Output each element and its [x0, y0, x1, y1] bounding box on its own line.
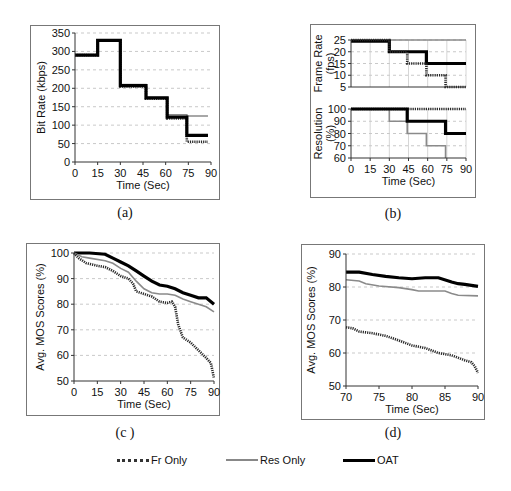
charts-svg: 0501001502002503003500153045607590Time (…: [0, 0, 511, 491]
svg-text:100: 100: [328, 103, 346, 115]
svg-text:45: 45: [138, 386, 150, 398]
y-axis-label: Avg. MOS Scores (%): [34, 263, 46, 370]
svg-text:0: 0: [348, 163, 354, 175]
y-axis-label: Frame Rate(fps): [312, 34, 336, 92]
x-axis-label: Time (Sec): [117, 398, 170, 410]
y-axis-label: Resolution(%): [312, 108, 336, 160]
svg-text:90: 90: [460, 163, 472, 175]
svg-text:75: 75: [441, 163, 453, 175]
chart-b-top: 510152025Frame Rate(fps): [312, 34, 466, 93]
svg-text:70: 70: [329, 314, 341, 326]
svg-text:150: 150: [52, 101, 70, 113]
svg-text:100: 100: [51, 247, 69, 259]
svg-text:15: 15: [92, 167, 104, 179]
svg-text:30: 30: [383, 163, 395, 175]
svg-text:45: 45: [137, 167, 149, 179]
svg-text:60: 60: [161, 386, 173, 398]
svg-text:60: 60: [329, 347, 341, 359]
svg-text:15: 15: [364, 163, 376, 175]
svg-text:70: 70: [340, 391, 352, 403]
series-fr-only: [74, 253, 214, 378]
svg-text:75: 75: [373, 391, 385, 403]
svg-text:90: 90: [329, 248, 341, 260]
svg-text:350: 350: [52, 27, 70, 39]
svg-text:85: 85: [439, 391, 451, 403]
svg-text:200: 200: [52, 82, 70, 94]
svg-text:300: 300: [52, 45, 70, 57]
svg-text:90: 90: [57, 273, 69, 285]
svg-text:0: 0: [71, 386, 77, 398]
svg-text:80: 80: [329, 281, 341, 293]
svg-text:100: 100: [52, 119, 70, 131]
y-axis-label: Bit Rate (kbps): [35, 61, 47, 134]
series-res-only: [74, 253, 214, 312]
svg-text:90: 90: [472, 391, 484, 403]
x-axis-label: Time (Sec): [382, 175, 435, 187]
svg-text:45: 45: [402, 163, 414, 175]
y-axis-label: Avg. MOS Scores (%): [305, 266, 317, 373]
svg-text:90: 90: [208, 386, 220, 398]
chart-b-bottom: 607080901000153045607590Time (Sec)Resolu…: [312, 103, 472, 187]
svg-text:30: 30: [115, 386, 127, 398]
svg-text:75: 75: [182, 167, 194, 179]
svg-text:80: 80: [57, 298, 69, 310]
svg-text:250: 250: [52, 64, 70, 76]
svg-text:70: 70: [57, 324, 69, 336]
chart-a: 0501001502002503003500153045607590Time (…: [35, 27, 217, 191]
svg-text:60: 60: [160, 167, 172, 179]
svg-text:5: 5: [340, 81, 346, 93]
series-fr-only: [346, 327, 478, 373]
svg-text:30: 30: [114, 167, 126, 179]
chart-c: 50607080901000153045607590Time (Sec)Avg.…: [34, 247, 220, 410]
svg-text:15: 15: [91, 386, 103, 398]
svg-text:75: 75: [185, 386, 197, 398]
svg-text:50: 50: [57, 375, 69, 387]
svg-text:0: 0: [72, 167, 78, 179]
svg-text:60: 60: [422, 163, 434, 175]
svg-text:50: 50: [58, 138, 70, 150]
svg-text:60: 60: [334, 152, 346, 164]
svg-text:90: 90: [205, 167, 217, 179]
chart-d: 50607080907075808590Time (Sec)Avg. MOS S…: [305, 248, 484, 415]
svg-text:0: 0: [64, 156, 70, 168]
x-axis-label: Time (Sec): [116, 179, 169, 191]
svg-text:25: 25: [334, 34, 346, 46]
x-axis-label: Time (Sec): [385, 403, 438, 415]
svg-text:60: 60: [57, 349, 69, 361]
svg-text:80: 80: [406, 391, 418, 403]
